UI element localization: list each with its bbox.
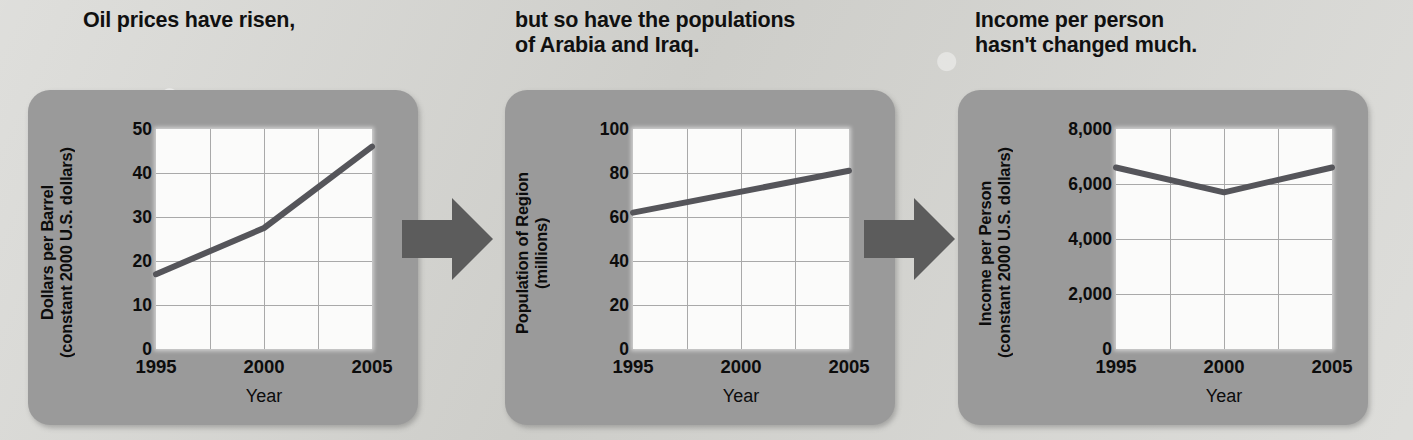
- y-axis-label: Population of Region (millions): [513, 108, 553, 398]
- data-line-income: [1116, 129, 1332, 349]
- y-tick: 10: [133, 295, 152, 316]
- y-tick: 8,000: [1068, 119, 1112, 140]
- x-tick: 2000: [243, 356, 284, 378]
- x-tick: 1995: [612, 356, 653, 378]
- y-tick: 40: [610, 251, 629, 272]
- chart-card: Income per Person (constant 2000 U.S. do…: [958, 90, 1368, 425]
- y-tick: 4,000: [1068, 229, 1112, 250]
- y-tick: 6,000: [1068, 174, 1112, 195]
- chart-card: Population of Region (millions) 100 80 6…: [505, 90, 895, 425]
- x-tick: 2005: [1311, 356, 1352, 378]
- panel-title: Income per person hasn't changed much.: [975, 8, 1375, 58]
- panel-population: but so have the populations of Arabia an…: [470, 0, 930, 440]
- y-tick: 80: [610, 163, 629, 184]
- x-tick: 2005: [351, 356, 392, 378]
- y-axis-label: Dollars per Barrel (constant 2000 U.S. d…: [38, 108, 78, 398]
- x-tick: 2000: [720, 356, 761, 378]
- x-tick: 2000: [1203, 356, 1244, 378]
- x-tick: 2005: [828, 356, 869, 378]
- panel-title: Oil prices have risen,: [83, 8, 443, 33]
- chart-card: Dollars per Barrel (constant 2000 U.S. d…: [28, 90, 418, 425]
- y-tick: 50: [133, 119, 152, 140]
- data-line-population: [633, 129, 849, 349]
- x-axis-label: Year: [1206, 386, 1242, 407]
- y-tick: 2,000: [1068, 284, 1112, 305]
- y-tick: 30: [133, 207, 152, 228]
- plot-area: [633, 129, 849, 349]
- y-tick: 20: [610, 295, 629, 316]
- x-tick: 1995: [1095, 356, 1136, 378]
- y-tick: 40: [133, 163, 152, 184]
- panel-income-per-person: Income per person hasn't changed much. I…: [930, 0, 1413, 440]
- y-tick: 20: [133, 251, 152, 272]
- x-axis-label: Year: [246, 386, 282, 407]
- y-tick: 100: [600, 119, 629, 140]
- plot-area: [156, 129, 372, 349]
- plot-area: [1116, 129, 1332, 349]
- y-tick: 60: [610, 207, 629, 228]
- x-tick: 1995: [135, 356, 176, 378]
- panel-title: but so have the populations of Arabia an…: [515, 8, 905, 58]
- data-line-oil-prices: [156, 129, 372, 349]
- x-axis-label: Year: [723, 386, 759, 407]
